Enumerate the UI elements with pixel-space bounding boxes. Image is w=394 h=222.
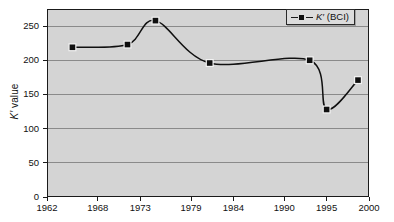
data-point-marker [153, 18, 159, 24]
legend-entry-label: K′ (BCI) [316, 12, 349, 22]
data-point-marker [70, 44, 76, 50]
data-point-marker [324, 107, 330, 113]
y-axis-tick-label: 150 [9, 89, 39, 98]
plot-background [47, 9, 369, 197]
y-axis-tick-label: 200 [9, 55, 39, 64]
data-point-marker [355, 77, 361, 83]
x-axis-tick-label: 1984 [213, 203, 253, 213]
data-point-marker [125, 42, 131, 48]
x-axis-tick-label: 1968 [78, 203, 118, 213]
data-point-marker [307, 57, 313, 63]
x-axis-tick-label: 1990 [264, 203, 304, 213]
x-axis-tick-label: 2000 [349, 203, 389, 213]
plot-area [0, 0, 394, 222]
chart-figure: K′ value 050100150200250 196219681973197… [0, 0, 394, 222]
legend-entry-symbol: K′ [316, 11, 324, 22]
x-axis-tick-label: 1979 [171, 203, 211, 213]
legend[interactable]: K′ (BCI) [286, 9, 355, 25]
x-axis-tick-label: 1995 [307, 203, 347, 213]
y-axis-tick-label: 100 [9, 124, 39, 133]
legend-line-marker-icon [291, 13, 313, 22]
legend-entry-rest: (BCI) [324, 11, 349, 22]
x-axis-tick-label: 1973 [120, 203, 160, 213]
x-axis-tick-label: 1962 [27, 203, 67, 213]
data-point-marker [207, 60, 213, 66]
y-axis-tick-label: 250 [9, 21, 39, 30]
y-axis-tick-label: 0 [9, 192, 39, 201]
y-axis-tick-label: 50 [9, 158, 39, 167]
